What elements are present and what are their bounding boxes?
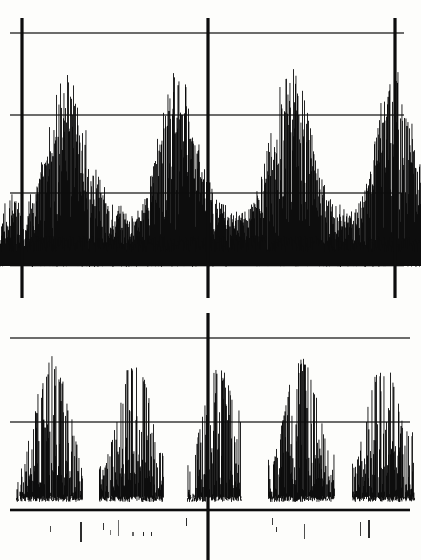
oscillograph-trace-canvas [0, 0, 421, 560]
scanned-figure [0, 0, 421, 560]
